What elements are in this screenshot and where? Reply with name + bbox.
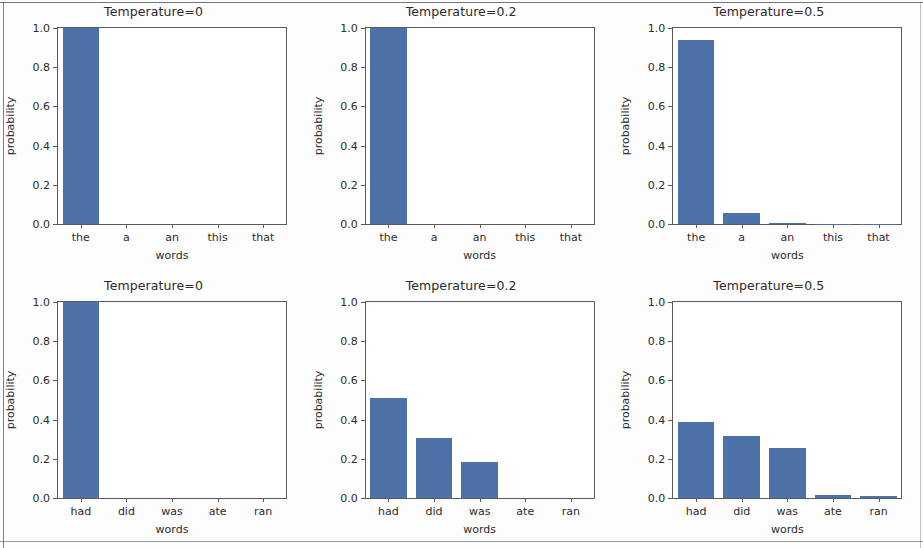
x-tick-label: a (123, 231, 130, 244)
bar (723, 213, 759, 224)
bars-container (366, 28, 594, 224)
plot-axes: 0.00.20.40.60.81.0theaanthisthat (672, 27, 902, 225)
x-tick-mark (434, 498, 435, 502)
y-tick-label: 1.0 (33, 22, 51, 35)
y-tick-mark (53, 498, 58, 499)
y-tick-label: 0.8 (648, 335, 666, 348)
y-tick-mark (361, 224, 366, 225)
bar-slot (104, 28, 150, 224)
x-tick-label: that (560, 231, 582, 244)
bar (678, 422, 714, 498)
y-tick-label: 0.6 (340, 100, 358, 113)
x-tick-label: an (780, 231, 794, 244)
y-tick-label: 0.4 (340, 139, 358, 152)
bar-slot (719, 28, 765, 224)
y-tick-mark (668, 498, 673, 499)
y-tick-label: 0.8 (33, 61, 51, 74)
x-tick-mark (81, 498, 82, 502)
x-tick-label: the (687, 231, 705, 244)
x-tick-label: did (118, 505, 135, 518)
x-tick-mark (525, 498, 526, 502)
bars-container (58, 302, 286, 498)
bar-slot (366, 302, 412, 498)
bar-slot (856, 302, 902, 498)
x-tick-label: ate (209, 505, 227, 518)
y-tick-label: 1.0 (340, 296, 358, 309)
bar-slot (548, 302, 594, 498)
x-tick-label: ate (516, 505, 534, 518)
x-tick-label: had (686, 505, 707, 518)
x-tick-mark (879, 224, 880, 228)
bar (63, 28, 99, 224)
x-tick-mark (434, 224, 435, 228)
x-tick-mark (571, 224, 572, 228)
y-tick-label: 0.4 (340, 413, 358, 426)
bar-slot (411, 302, 457, 498)
bar (370, 398, 406, 498)
y-tick-label: 0.2 (648, 178, 666, 191)
y-tick-label: 0.6 (340, 374, 358, 387)
bar-slot (149, 302, 195, 498)
bar (63, 302, 99, 498)
subplot-title: Temperature=0.5 (615, 4, 922, 19)
x-tick-mark (263, 224, 264, 228)
bar-slot (195, 28, 241, 224)
x-tick-mark (833, 498, 834, 502)
bar-slot (457, 302, 503, 498)
x-tick-mark (742, 498, 743, 502)
bar-slot (719, 302, 765, 498)
y-tick-label: 0.2 (340, 178, 358, 191)
y-tick-mark (53, 224, 58, 225)
bar-slot (856, 28, 902, 224)
subplot-title: Temperature=0.2 (308, 4, 615, 19)
bar (769, 448, 805, 498)
y-tick-label: 0.4 (648, 139, 666, 152)
bars-container (366, 302, 594, 498)
bar-slot (366, 28, 412, 224)
y-tick-label: 0.0 (33, 218, 51, 231)
y-tick-label: 1.0 (340, 22, 358, 35)
bar-slot (810, 302, 856, 498)
subplot-title: Temperature=0.2 (308, 278, 615, 293)
subplot-panel: Temperature=0.5probabilitywords0.00.20.4… (615, 274, 922, 548)
y-tick-label: 1.0 (648, 296, 666, 309)
y-tick-label: 0.2 (33, 452, 51, 465)
y-tick-label: 0.8 (648, 61, 666, 74)
bar-slot (548, 28, 594, 224)
x-tick-label: that (867, 231, 889, 244)
x-tick-mark (833, 224, 834, 228)
x-tick-mark (787, 224, 788, 228)
y-tick-label: 1.0 (648, 22, 666, 35)
y-tick-label: 0.6 (33, 374, 51, 387)
x-tick-mark (172, 224, 173, 228)
x-tick-mark (696, 498, 697, 502)
bar-slot (240, 302, 286, 498)
x-tick-label: had (378, 505, 399, 518)
bar (461, 462, 497, 498)
bar-slot (673, 302, 719, 498)
bar-slot (810, 28, 856, 224)
y-axis-label: probability (4, 97, 17, 156)
y-axis-label: probability (311, 371, 324, 430)
bar-slot (149, 28, 195, 224)
x-tick-mark (696, 224, 697, 228)
x-tick-mark (525, 224, 526, 228)
bar-slot (457, 28, 503, 224)
x-tick-mark (126, 224, 127, 228)
x-tick-mark (787, 498, 788, 502)
y-tick-label: 0.4 (33, 413, 51, 426)
y-tick-label: 0.8 (340, 61, 358, 74)
x-axis-label: words (365, 249, 595, 262)
x-tick-label: this (515, 231, 535, 244)
bar (678, 40, 714, 224)
x-tick-label: this (208, 231, 228, 244)
y-tick-label: 0.8 (340, 335, 358, 348)
y-tick-label: 0.0 (340, 492, 358, 505)
x-tick-label: ate (824, 505, 842, 518)
subplot-title: Temperature=0 (0, 4, 307, 19)
bar-slot (195, 302, 241, 498)
x-tick-mark (388, 224, 389, 228)
y-tick-label: 0.4 (33, 139, 51, 152)
plot-axes: 0.00.20.40.60.81.0theaanthisthat (365, 27, 595, 225)
x-tick-mark (218, 224, 219, 228)
